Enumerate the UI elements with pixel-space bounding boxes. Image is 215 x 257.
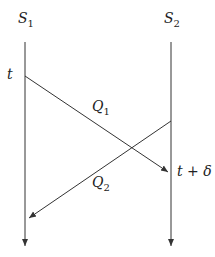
q2-arrow [29,121,171,218]
message-q1-label: Q1 [92,98,110,117]
time-t-delta-label: t + δ [177,163,212,179]
process-s1-label: S1 [18,10,34,29]
q1-arrow [25,76,168,172]
process-s2-label: S2 [164,10,180,29]
time-t-label: t [7,66,13,82]
sequence-diagram [0,0,215,257]
message-q2-label: Q2 [92,174,110,193]
